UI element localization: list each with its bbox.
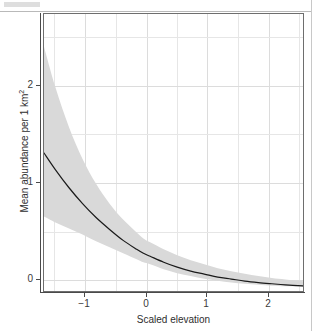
- x-axis-tick: [146, 292, 147, 297]
- page-border-top: [0, 11, 312, 12]
- header-text-fragment: [4, 2, 40, 7]
- chart-graphic: [44, 14, 303, 291]
- x-axis-tick-label: 2: [256, 299, 280, 309]
- y-axis-label-superscript: 2: [18, 90, 25, 94]
- x-axis-tick: [84, 292, 85, 297]
- y-axis-tick-label: 0: [11, 274, 33, 284]
- x-axis-label: Scaled elevation: [43, 314, 304, 325]
- confidence-ribbon: [44, 47, 303, 287]
- x-axis-tick: [206, 292, 207, 297]
- x-axis-tick-label: 1: [194, 299, 218, 309]
- x-axis-tick-label: 0: [134, 299, 158, 309]
- y-axis-tick: [36, 85, 41, 86]
- y-axis-tick: [36, 182, 41, 183]
- y-axis-label: Mean abundance per 1 km2: [18, 41, 30, 261]
- y-axis-label-text: Mean abundance per 1 km: [19, 94, 30, 213]
- page-border-right: [311, 0, 312, 331]
- x-axis-line: [40, 292, 305, 293]
- y-axis-line: [40, 13, 41, 293]
- y-axis-tick: [36, 279, 41, 280]
- page-canvas: 210−1012 Scaled elevation Mean abundance…: [0, 0, 319, 331]
- plot-panel: [43, 13, 304, 292]
- x-axis-tick: [268, 292, 269, 297]
- x-axis-tick-label: −1: [72, 299, 96, 309]
